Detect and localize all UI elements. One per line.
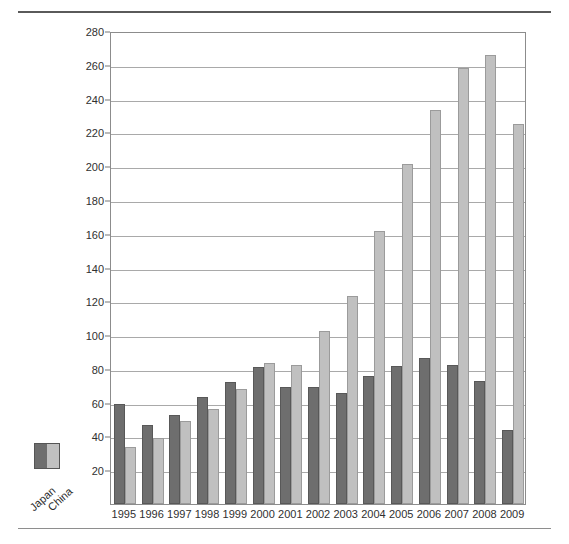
bar-china-2000[interactable] xyxy=(264,363,275,504)
x-axis-tick-1995: 1995 xyxy=(112,508,136,521)
x-axis-tick-labels: 1995199619971998199920002001200220032004… xyxy=(110,508,526,524)
x-axis-tick-2005: 2005 xyxy=(389,508,413,521)
bar-group-2005 xyxy=(391,33,413,504)
x-axis-tick-2000: 2000 xyxy=(250,508,274,521)
x-axis-tick-1998: 1998 xyxy=(195,508,219,521)
bar-group-2001 xyxy=(280,33,302,504)
bar-japan-1995[interactable] xyxy=(114,404,125,505)
x-axis-tick-1997: 1997 xyxy=(167,508,191,521)
bar-china-2006[interactable] xyxy=(430,110,441,504)
bar-china-2008[interactable] xyxy=(485,55,496,504)
bar-japan-2000[interactable] xyxy=(253,367,264,504)
legend-swatch xyxy=(34,443,60,469)
bar-japan-2009[interactable] xyxy=(502,430,513,504)
bar-group-2003 xyxy=(336,33,358,504)
bar-china-1999[interactable] xyxy=(236,389,247,504)
x-axis-tick-1999: 1999 xyxy=(223,508,247,521)
x-axis-tick-2001: 2001 xyxy=(278,508,302,521)
bar-group-2008 xyxy=(474,33,496,504)
bar-japan-1999[interactable] xyxy=(225,382,236,504)
y-axis-tick-60: 60 xyxy=(92,398,104,409)
x-axis-tick-2007: 2007 xyxy=(444,508,468,521)
y-axis-tick-120: 120 xyxy=(86,297,104,308)
bar-china-2007[interactable] xyxy=(458,68,469,504)
bar-group-1999 xyxy=(225,33,247,504)
bar-china-1995[interactable] xyxy=(125,447,136,504)
y-axis-tick-80: 80 xyxy=(92,364,104,375)
bar-japan-2005[interactable] xyxy=(391,366,402,504)
top-divider-rule xyxy=(18,11,551,13)
y-axis-tick-100: 100 xyxy=(86,331,104,342)
bar-group-1996 xyxy=(142,33,164,504)
y-axis-tick-160: 160 xyxy=(86,229,104,240)
bar-japan-2002[interactable] xyxy=(308,387,319,504)
bar-group-1998 xyxy=(197,33,219,504)
x-axis-tick-2003: 2003 xyxy=(333,508,357,521)
legend-swatch-japan xyxy=(35,444,47,468)
bar-japan-2001[interactable] xyxy=(280,387,291,504)
bar-japan-1996[interactable] xyxy=(142,425,153,504)
bar-japan-2006[interactable] xyxy=(419,358,430,504)
y-axis-tick-220: 220 xyxy=(86,128,104,139)
x-axis-tick-2008: 2008 xyxy=(472,508,496,521)
chart-legend: Japan China xyxy=(26,443,96,523)
bar-china-2001[interactable] xyxy=(291,365,302,504)
y-axis-tick-280: 280 xyxy=(86,27,104,38)
plot-area xyxy=(110,32,526,505)
bottom-divider-rule xyxy=(18,528,551,529)
bar-china-1997[interactable] xyxy=(180,421,191,504)
x-axis-tick-2002: 2002 xyxy=(306,508,330,521)
bar-group-2009 xyxy=(502,33,524,504)
bar-group-1995 xyxy=(114,33,136,504)
bar-group-2004 xyxy=(363,33,385,504)
bar-china-1998[interactable] xyxy=(208,409,219,504)
x-axis-tick-2004: 2004 xyxy=(361,508,385,521)
bar-japan-2007[interactable] xyxy=(447,365,458,504)
y-axis-tick-40: 40 xyxy=(92,432,104,443)
bar-japan-2008[interactable] xyxy=(474,381,485,504)
bar-china-2002[interactable] xyxy=(319,331,330,504)
bar-china-2004[interactable] xyxy=(374,231,385,504)
bar-japan-1998[interactable] xyxy=(197,397,208,504)
y-axis-tick-260: 260 xyxy=(86,60,104,71)
y-axis-tick-140: 140 xyxy=(86,263,104,274)
bar-japan-2004[interactable] xyxy=(363,376,374,504)
bar-china-1996[interactable] xyxy=(153,438,164,504)
bar-china-2005[interactable] xyxy=(402,164,413,504)
bar-group-2007 xyxy=(447,33,469,504)
bar-group-2006 xyxy=(419,33,441,504)
x-axis-tick-2006: 2006 xyxy=(417,508,441,521)
bar-japan-1997[interactable] xyxy=(169,415,180,504)
y-axis-tick-labels: 20406080100120140160180200220240260280 xyxy=(62,32,110,505)
x-axis-tick-2009: 2009 xyxy=(500,508,524,521)
y-axis-tick-240: 240 xyxy=(86,94,104,105)
chart-page: In billions of dollars 20406080100120140… xyxy=(0,0,569,544)
bar-group-2002 xyxy=(308,33,330,504)
y-axis-tick-200: 200 xyxy=(86,162,104,173)
y-axis-tick-180: 180 xyxy=(86,195,104,206)
bar-japan-2003[interactable] xyxy=(336,393,347,504)
bar-group-1997 xyxy=(169,33,191,504)
bar-group-2000 xyxy=(253,33,275,504)
legend-swatch-china xyxy=(47,444,59,468)
bar-china-2003[interactable] xyxy=(347,296,358,504)
x-axis-tick-1996: 1996 xyxy=(139,508,163,521)
bar-china-2009[interactable] xyxy=(513,124,524,504)
